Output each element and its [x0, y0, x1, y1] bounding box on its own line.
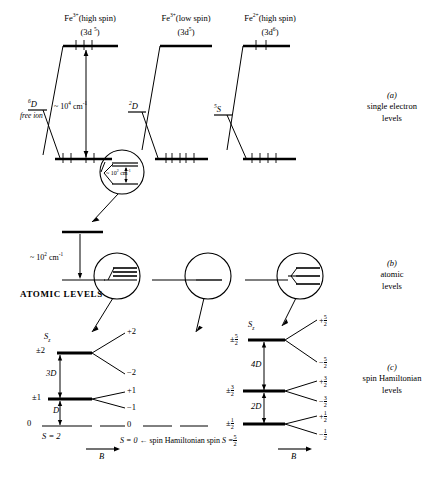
column-header-1: Fe3+(high spin): [64, 13, 115, 22]
gap-a-value: ~ 10: [54, 102, 68, 111]
col2-config-base: (3d: [178, 27, 189, 37]
column-header-2: Fe3+(low spin): [161, 13, 210, 22]
c-left-split-0: 0: [127, 420, 131, 429]
c-left-fan-pm1-down: [92, 399, 125, 408]
c-right-fan-pm32-up: [285, 381, 317, 391]
caption-S0: S = 0: [120, 436, 137, 445]
column-header-3: Fe2+(high spin): [244, 13, 295, 22]
c-right-split-pm12-minus: −12: [319, 428, 327, 442]
col3-lower-slant: [227, 115, 246, 158]
frac-pm52: 52: [235, 333, 238, 347]
b-col3-to-c-leader: [282, 298, 296, 326]
c-right-fan-pm12-down: [285, 424, 317, 434]
c-right-gap-label-2D: 2D: [251, 402, 261, 411]
c-left-label-0: 0: [27, 419, 31, 428]
col2-spin: (low spin): [176, 13, 211, 23]
section-caption-a: (a) single electron levels: [367, 90, 417, 124]
term-symbol-col2: 2D: [129, 101, 138, 110]
inset-gap-unit-exp: -1: [128, 169, 131, 173]
column-config-3: (3d6): [262, 27, 279, 36]
free-ion-label: free ion: [20, 112, 43, 120]
c-right-split-pm32-minus: −32: [319, 395, 327, 409]
c-left-label-pm2: ±2: [36, 346, 45, 355]
b-col1-fan: [108, 268, 114, 280]
b-col1-split-lines: [113, 268, 137, 276]
section-a-letter: (a): [387, 90, 397, 100]
inset-gap-value: ~ 10: [106, 170, 117, 176]
c-left-label-pm1: ±1: [32, 393, 41, 402]
term3-letter: S: [217, 104, 221, 114]
c-left-spin-value: S = 2: [42, 432, 61, 441]
col1-ion: Fe: [64, 13, 73, 23]
term1-letter: D: [31, 99, 37, 109]
c-right-split-pm52-minus: −52: [319, 356, 327, 370]
b-col3-split-lines: [296, 268, 320, 284]
frac-split-12m: 12: [324, 428, 327, 442]
c-right-label-pm12: ±12: [226, 417, 234, 431]
sz-sub-right: z: [252, 325, 254, 331]
c-left-sz-symbol: Sz: [44, 332, 50, 343]
frac-split-32p: 32: [324, 375, 327, 389]
energy-gap-label-a: ~ 104 cm-1: [54, 101, 87, 111]
caption-fraction-right: 52: [233, 434, 236, 448]
c-right-split-pm12-plus: +12: [319, 410, 327, 424]
b-col2-magnifier: [185, 253, 231, 299]
c-right-label-pm32: ±32: [226, 384, 234, 398]
caption-text: spin Hamiltonian spin: [149, 436, 220, 445]
frac-split-52p: 52: [324, 314, 327, 328]
c-right-fan-pm52-down: [285, 340, 317, 362]
section-b-letter: (b): [387, 258, 397, 268]
caption-S-right: S =: [222, 436, 233, 445]
c-left-fan-pm1-up: [92, 392, 125, 399]
c-right-gap-label-4D: 4D: [251, 360, 261, 369]
c-left-split-pm1-minus: −1: [127, 403, 136, 412]
section-caption-c: (c) spin Hamiltonian levels: [363, 362, 422, 396]
b-col3-fan-down: [291, 276, 297, 284]
c-right-sz-symbol: Sz: [248, 320, 254, 331]
c-left-fan-pm2-up: [92, 333, 125, 353]
c-right-split-pm32-plus: +32: [319, 375, 327, 389]
c-left-gap-3D-arrow-up: [58, 355, 62, 361]
c-right-gap-2D-arrow-down: [262, 418, 266, 423]
diagram-lines: [0, 0, 444, 487]
c-left-gap-D-arrow-down: [58, 420, 62, 425]
c-right-gap-4D-arrow-down: [262, 385, 266, 391]
term2-letter: D: [132, 101, 138, 111]
term-symbol-col1: 6D: [28, 99, 37, 108]
c-left-B-axis-label: B: [99, 452, 104, 461]
section-a-line1: single electron: [367, 101, 417, 111]
c-bottom-caption: S = 0 ← spin Hamiltonian spin S =52: [120, 434, 237, 448]
c-right-gap-4D-arrow-up: [262, 342, 266, 348]
column-config-1: (3d 5): [80, 27, 99, 36]
c-right-gap-2D-arrow-up: [262, 393, 266, 398]
c-right-B-axis-label: B: [291, 452, 296, 461]
gap-a-unit: cm: [71, 102, 83, 111]
col1-config-base: (3d: [80, 27, 91, 37]
gap-b-value: ~ 10: [30, 253, 44, 262]
c-left-gap-label-D: D: [53, 406, 59, 415]
section-a-line2: levels: [382, 113, 402, 123]
c-right-fan-pm52-up: [285, 320, 317, 340]
b-col1-gap-arrowhead: [78, 273, 82, 279]
c-left-gap-3D-arrow-down: [58, 393, 62, 399]
frac-split-52m: 52: [324, 356, 327, 370]
term-symbol-col3: 5S: [214, 104, 221, 113]
c-left-split-pm2-plus: +2: [127, 327, 136, 336]
inset-gap-label: ~ 102 cm-1: [106, 170, 131, 176]
section-c-line1: spin Hamiltonian: [363, 373, 422, 383]
c-left-split-pm2-minus: −2: [127, 368, 136, 377]
b-col3-fan-up: [291, 268, 297, 276]
col2-ion: Fe: [161, 13, 170, 23]
col3-spin: (high spin): [259, 13, 296, 23]
c-left-fan-pm2-down: [92, 353, 125, 374]
gap-b-unit: cm: [47, 253, 59, 262]
frac-split-32m: 32: [324, 395, 327, 409]
gap-b-unit-exp: -1: [59, 251, 63, 257]
c-left-split-pm1-plus: +1: [127, 386, 136, 395]
section-c-letter: (c): [387, 362, 396, 372]
section-b-line1: atomic: [380, 269, 403, 279]
gap-a-unit-exp: -1: [83, 100, 87, 106]
column-config-2: (3d5): [178, 27, 195, 36]
atomic-levels-label: ATOMIC LEVELS: [20, 290, 103, 299]
energy-level-diagram: Fe3+(high spin) (3d 5) Fe3+(low spin) (3…: [0, 0, 444, 487]
